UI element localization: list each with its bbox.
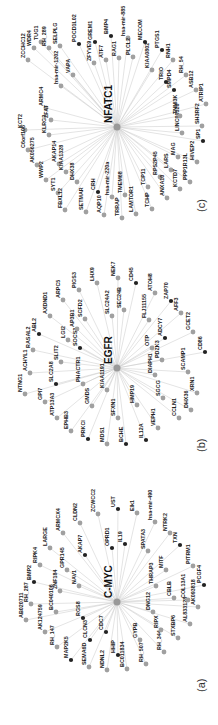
gene-label: RH_54 <box>178 56 184 73</box>
gene-label: ANXA10 <box>159 175 165 196</box>
gene-label: GPI7 <box>37 388 43 400</box>
gray-node-dot <box>178 114 183 119</box>
black-node-dot <box>144 438 148 442</box>
gene-node: SCFD2 <box>77 299 87 321</box>
gene-label: VEPH1 <box>150 408 156 426</box>
gene-node: IL19 <box>117 531 127 546</box>
gene-node: KIAA1328 <box>58 145 68 175</box>
gene-label: COL13A1 <box>180 574 186 598</box>
gene-node: RH_54 <box>178 56 188 77</box>
black-node-dot <box>143 40 147 44</box>
gene-node: Elk1 <box>129 500 139 515</box>
gray-node-dot <box>69 429 74 434</box>
gene-label: GMDS <box>84 387 90 404</box>
gray-node-dot <box>102 213 107 218</box>
gray-node-dot <box>123 193 128 198</box>
gene-label: PLCL2 <box>125 38 131 55</box>
gene-label: AK124759 <box>37 604 43 630</box>
gene-label: AXDND1 <box>42 292 48 314</box>
gene-node: ZCWCC2 <box>90 489 100 516</box>
gray-node-dot <box>77 288 82 293</box>
gene-label: DHX36 <box>183 391 189 408</box>
gray-node-dot <box>87 665 92 670</box>
gene-node: RH_507 <box>138 642 148 666</box>
edge <box>117 127 180 189</box>
gene-label: RH_344 <box>156 630 162 650</box>
gene-node: AXDND1 <box>42 292 52 319</box>
gene-label: TNNI3K <box>172 94 178 114</box>
gene-node: ARMCX4 <box>55 508 65 535</box>
gene-node: HMP19 <box>129 385 139 407</box>
gene-node: HIVEP2 <box>189 141 199 165</box>
gene-node: AKAP7 <box>77 535 87 557</box>
gene-node: RH_147 <box>49 625 59 649</box>
gray-node-dot <box>55 416 60 421</box>
gene-node: GREM1 <box>87 21 97 44</box>
black-node-dot <box>172 88 176 92</box>
gene-node: SP1 <box>195 129 205 143</box>
black-node-dot <box>54 382 58 386</box>
edge <box>117 368 179 418</box>
gene-label: THRAP3 <box>148 562 154 584</box>
gene-node: RIPX <box>153 615 163 632</box>
gene-node: ATRIP1 <box>198 83 208 106</box>
gene-label: hsa-mir-220a <box>104 161 110 195</box>
edge <box>31 602 117 604</box>
gray-node-dot <box>65 568 70 573</box>
gray-node-dot <box>75 327 80 332</box>
network-panel-a: ZCWCC2CLDN2ARMCX4LARGERIPK4BMP2RH_287AB0… <box>18 489 207 692</box>
edge <box>117 104 206 127</box>
gray-node-dot <box>95 281 100 286</box>
gray-node-dot <box>146 549 151 554</box>
gene-label: CD45 <box>128 267 134 281</box>
black-node-dot <box>37 332 41 336</box>
gene-label: HMP19 <box>129 385 135 403</box>
gray-node-dot <box>153 373 158 378</box>
gene-node: RNH1 <box>165 43 175 62</box>
gene-node: CCLN1 <box>171 398 181 420</box>
gray-node-dot <box>96 512 101 517</box>
gene-label: PDZK3 <box>154 340 160 358</box>
edge <box>117 127 178 157</box>
black-node-dot <box>116 507 120 511</box>
gene-node: MAG <box>170 142 180 159</box>
gray-node-dot <box>61 531 66 536</box>
gene-node: DHX36 <box>183 391 193 413</box>
hub-label: C-MYC <box>103 565 114 598</box>
gene-label: MECOM <box>137 19 143 40</box>
gene-node: NTNG1 <box>17 374 27 397</box>
gene-label: hsa-mir-1202 <box>53 51 59 84</box>
gene-label: KLRG2 <box>41 115 47 133</box>
gene-node: CD86 <box>197 336 207 354</box>
gene-label: VAPA <box>65 59 71 73</box>
gene-node: GPR145 <box>59 547 69 572</box>
gene-label: PRKCI <box>80 420 86 437</box>
gene-label: BMP4 <box>103 19 109 34</box>
gene-label: IL12A <box>138 423 144 438</box>
gene-label: DHX38 <box>69 163 75 180</box>
gene-label: PIGS3 <box>71 272 77 288</box>
gene-label: RGS8 <box>75 601 81 616</box>
gray-node-dot <box>162 650 167 655</box>
gene-node: NTRK2 <box>162 513 172 535</box>
gene-node: PLCL2 <box>125 38 135 59</box>
edge <box>117 50 162 127</box>
gray-node-dot <box>63 208 68 213</box>
gene-node: hsa-mir-885 <box>120 6 130 41</box>
gene-node: AQP10 <box>96 195 106 217</box>
gene-label: PHACTR1 <box>75 357 81 382</box>
gene-node: hsa-mir-490 <box>147 490 157 525</box>
gene-node: RH_289 <box>41 26 51 50</box>
gene-label: GREM1 <box>87 21 93 40</box>
network-panel-b: LHX9PIGS3ARPC5AXDND1ABL2RASAL2ACHYL1NTNG… <box>17 262 207 452</box>
gene-node: WWP2 <box>38 161 48 182</box>
gene-label: NAV1 <box>71 570 77 584</box>
gene-node: UST <box>110 496 120 512</box>
gene-node: STXBP6 <box>170 615 180 640</box>
gene-label: ACHYL1 <box>22 349 28 371</box>
gene-label: TMEM68 <box>117 171 123 193</box>
black-node-dot <box>160 48 164 52</box>
gene-label: RH_147 <box>49 625 55 645</box>
gray-node-dot <box>61 298 66 303</box>
edge <box>117 551 148 602</box>
